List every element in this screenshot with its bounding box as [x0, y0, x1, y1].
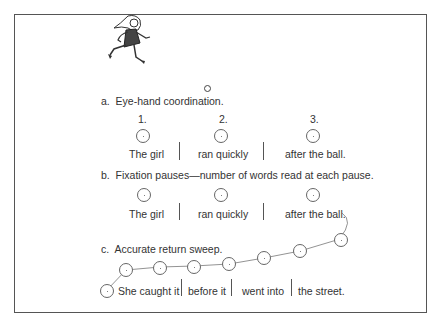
phrase: She caught it — [118, 285, 179, 297]
fixation-circle-icon — [153, 261, 167, 275]
eye-movement-path — [0, 0, 439, 327]
fixation-circle-icon — [187, 260, 201, 274]
fixation-circle-icon — [119, 263, 133, 277]
section-c-title: Accurate return sweep. — [114, 243, 222, 255]
fixation-circle-icon — [293, 244, 307, 258]
fixation-circle-icon — [222, 257, 236, 271]
fixation-circle-icon — [257, 251, 271, 265]
fixation-circle-icon — [100, 284, 114, 298]
phrase-divider — [181, 279, 182, 296]
fixation-circle-icon — [334, 233, 348, 247]
phrase: went into — [242, 285, 284, 297]
phrase: the street. — [298, 285, 345, 297]
phrase-divider — [231, 279, 232, 296]
section-c-heading: c. Accurate return sweep. — [101, 243, 222, 255]
phrase: before it — [188, 285, 226, 297]
section-c-label: c. — [101, 243, 109, 255]
phrase-divider — [291, 279, 292, 296]
